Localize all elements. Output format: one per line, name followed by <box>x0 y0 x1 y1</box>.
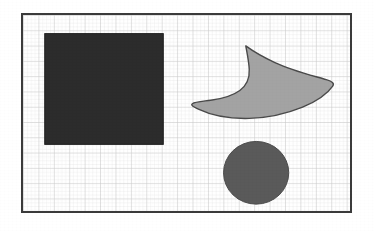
figure-plate <box>21 13 352 213</box>
figure-root: Geometric shapes on graph-paper grid <box>0 0 374 231</box>
shape-crescent <box>192 46 334 119</box>
shape-square <box>45 34 164 145</box>
shape-circle <box>224 141 289 204</box>
shapes-layer <box>23 15 350 211</box>
